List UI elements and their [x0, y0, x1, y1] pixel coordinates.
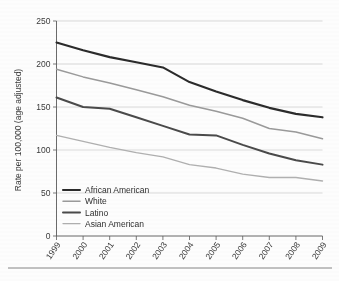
y-tick-label-100: 100 — [36, 145, 50, 155]
legend-label-latino: Latino — [85, 208, 108, 218]
x-tick-label-2006: 2006 — [230, 240, 249, 261]
x-tickmarks-group — [57, 236, 323, 240]
y-tick-label-250: 250 — [36, 16, 50, 26]
x-tick-labels-group: 1999200020012002200320042005200620072008… — [44, 240, 329, 261]
y-tick-label-150: 150 — [36, 102, 50, 112]
legend: African AmericanWhiteLatinoAsian America… — [63, 185, 150, 229]
x-tick-label-2003: 2003 — [150, 240, 169, 261]
legend-label-white: White — [85, 196, 107, 206]
y-tick-label-200: 200 — [36, 59, 50, 69]
y-tick-label-50: 50 — [41, 188, 51, 198]
y-axis-label: Rate per 100,000 (age adjusted) — [13, 69, 23, 192]
x-tick-label-2001: 2001 — [97, 240, 116, 261]
series-line-latino — [57, 98, 323, 165]
line-chart: 050100150200250 199920002001200220032004… — [0, 0, 339, 281]
x-tick-label-2000: 2000 — [70, 240, 89, 261]
y-tick-labels-group: 050100150200250 — [36, 16, 50, 241]
y-tick-label-0: 0 — [46, 231, 51, 241]
x-tick-label-2005: 2005 — [203, 240, 222, 261]
x-tick-label-1999: 1999 — [44, 240, 63, 261]
x-tick-label-2008: 2008 — [283, 240, 302, 261]
y-axis-label-group: Rate per 100,000 (age adjusted) — [13, 69, 23, 192]
x-tick-label-2004: 2004 — [177, 240, 196, 261]
y-tickmarks-group — [53, 21, 57, 236]
series-line-asian-american — [57, 135, 323, 181]
x-tick-label-2009: 2009 — [310, 240, 329, 261]
x-tick-label-2007: 2007 — [256, 240, 275, 261]
legend-label-asian-american: Asian American — [85, 219, 144, 229]
series-line-white — [57, 69, 323, 139]
figure-container: 050100150200250 199920002001200220032004… — [0, 0, 339, 281]
x-tick-label-2002: 2002 — [123, 240, 142, 261]
series-lines-group — [57, 43, 323, 181]
legend-label-african-american: African American — [85, 185, 150, 195]
